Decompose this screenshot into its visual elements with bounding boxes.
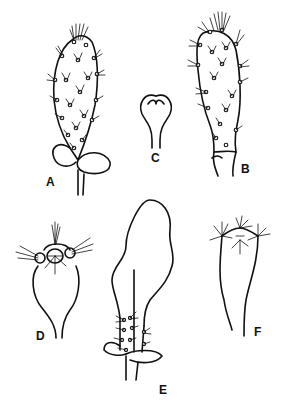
label-d: D	[36, 330, 45, 342]
figure-e	[104, 200, 173, 380]
figure-a	[47, 24, 110, 195]
label-e: E	[159, 384, 167, 396]
label-b: B	[241, 163, 250, 175]
label-c: C	[151, 152, 160, 164]
figure-d	[16, 222, 93, 338]
label-a: A	[46, 176, 55, 188]
illustration-plate	[0, 0, 283, 407]
figure-b	[188, 12, 249, 176]
label-f: F	[254, 326, 261, 338]
figure-f	[210, 216, 270, 336]
figure-c	[141, 95, 171, 148]
